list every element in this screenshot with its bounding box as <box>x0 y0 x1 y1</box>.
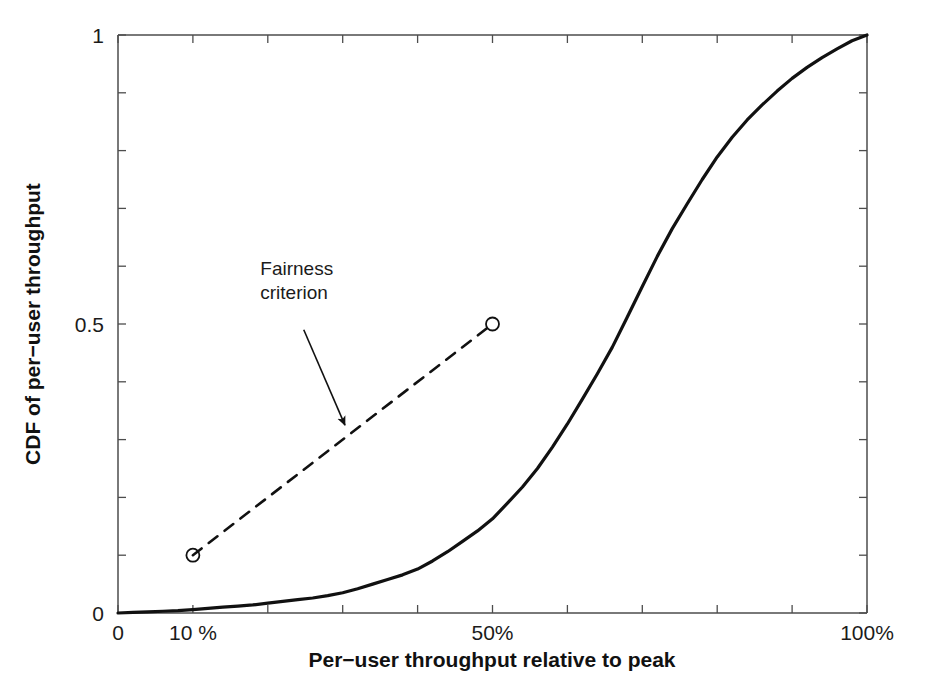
y-tick-label: 0.5 <box>75 313 104 336</box>
x-tick-label: 10 % <box>169 621 217 644</box>
chart-background <box>0 0 930 699</box>
x-tick-label: 0 <box>112 621 124 644</box>
cdf-plot: 010 %50%100% 00.51 Fairness criterion Pe… <box>0 0 930 699</box>
chart-figure: 010 %50%100% 00.51 Fairness criterion Pe… <box>0 0 930 699</box>
fairness-annotation-line-2: criterion <box>260 282 328 303</box>
x-tick-label: 50% <box>471 621 513 644</box>
y-axis-title: CDF of per−user throughput <box>21 183 44 465</box>
x-tick-label: 100% <box>840 621 894 644</box>
y-tick-label: 0 <box>92 602 104 625</box>
x-axis-title: Per−user throughput relative to peak <box>308 648 675 671</box>
fairness-annotation-line-1: Fairness <box>260 258 333 279</box>
y-tick-label: 1 <box>92 24 104 47</box>
